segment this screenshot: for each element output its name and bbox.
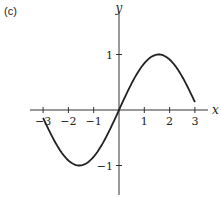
y-tick-label: 1	[106, 49, 113, 62]
y-tick-label: −1	[97, 160, 113, 173]
x-tick-label: 3	[191, 115, 198, 128]
x-tick-label: −1	[86, 115, 102, 128]
x-tick-label: −2	[60, 115, 76, 128]
chart: (c) −3−2−1123 1−1 x y	[0, 0, 221, 197]
panel-label: (c)	[4, 5, 17, 17]
x-tick-label: −3	[35, 115, 51, 128]
axes	[30, 12, 208, 195]
x-tick-label: 2	[166, 115, 173, 128]
x-axis-label: x	[212, 103, 219, 117]
x-tick-label: 1	[141, 115, 148, 128]
y-axis-label: y	[115, 1, 123, 15]
